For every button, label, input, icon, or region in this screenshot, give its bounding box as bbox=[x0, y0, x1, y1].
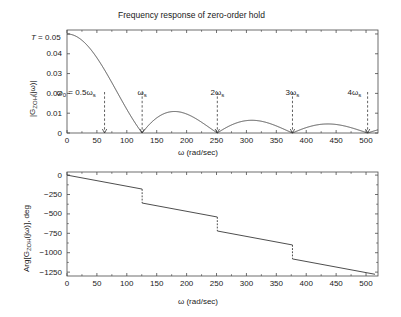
bottom-ytick-label: 0 bbox=[58, 171, 62, 180]
top-ytick-label: 0 bbox=[58, 129, 62, 138]
sampling-period-label: T = 0.05 bbox=[31, 33, 61, 42]
top-xtick-label: 350 bbox=[270, 136, 283, 145]
top-xtick-label: 0 bbox=[65, 136, 69, 145]
zoh-frequency-response-figure: Frequency response of zero-order hold T … bbox=[0, 0, 401, 317]
top-xtick-label: 150 bbox=[150, 136, 163, 145]
top-xtick-label: 300 bbox=[240, 136, 253, 145]
magnitude-curve bbox=[67, 34, 378, 133]
bottom-xtick-label: 200 bbox=[180, 279, 193, 288]
bottom-plot-axes bbox=[67, 172, 378, 276]
bottom-xtick-label: 500 bbox=[359, 279, 372, 288]
top-ylabel-post: (jω)| bbox=[28, 81, 37, 96]
bottom-xtick-label: 100 bbox=[120, 279, 133, 288]
3omegas-marker-label: 3ωs bbox=[286, 88, 300, 98]
bottom-ytick-label: −750 bbox=[44, 229, 62, 238]
bottom-ylabel-sub: ZOH bbox=[26, 238, 32, 251]
page-title: Frequency response of zero-order hold bbox=[118, 11, 265, 20]
top-xtick-label: 100 bbox=[120, 136, 133, 145]
bottom-xtick-label: 300 bbox=[240, 279, 253, 288]
omega0-marker-label: ω0 = 0.5ωs bbox=[57, 88, 96, 98]
bottom-xtick-label: 450 bbox=[329, 279, 342, 288]
top-ylabel-pre: |G bbox=[28, 109, 37, 117]
magnitude-marker-lines bbox=[102, 92, 369, 133]
top-xtick-label: 50 bbox=[92, 136, 101, 145]
bottom-ylabel-post: (jω)], deg bbox=[22, 205, 31, 238]
top-xlabel: ω (rad/sec) bbox=[178, 148, 218, 157]
top-xtick-label: 250 bbox=[210, 136, 223, 145]
top-plot-axes bbox=[67, 30, 378, 133]
bottom-xtick-label: 150 bbox=[150, 279, 163, 288]
bottom-xtick-label: 250 bbox=[210, 279, 223, 288]
figure-root: Frequency response of zero-order hold T … bbox=[0, 0, 401, 317]
bottom-xlabel: ω (rad/sec) bbox=[178, 297, 218, 306]
top-xtick-label: 500 bbox=[359, 136, 372, 145]
4omegas-marker-label: 4ωs bbox=[348, 88, 362, 98]
bottom-ylabel-pre: Arg[G bbox=[22, 251, 31, 272]
top-xtick-label: 450 bbox=[329, 136, 342, 145]
bottom-ytick-label: −1000 bbox=[40, 248, 62, 257]
bottom-xtick-label: 0 bbox=[65, 279, 69, 288]
top-xtick-label: 200 bbox=[180, 136, 193, 145]
top-ylabel: |GZOH(jω)| bbox=[28, 81, 38, 117]
2omegas-marker-label: 2ωs bbox=[210, 88, 224, 98]
top-ytick-label: 0.04 bbox=[46, 49, 62, 58]
bottom-ytick-label: −500 bbox=[44, 209, 62, 218]
phase-curve bbox=[67, 175, 375, 274]
bottom-ytick-label: −1250 bbox=[40, 268, 62, 277]
top-ytick-label: 0.03 bbox=[46, 69, 62, 78]
top-ylabel-sub: ZOH bbox=[32, 96, 38, 109]
bottom-xtick-label: 50 bbox=[92, 279, 101, 288]
bottom-xtick-label: 350 bbox=[270, 279, 283, 288]
bottom-ytick-label: −250 bbox=[44, 190, 62, 199]
bottom-ylabel: Arg[GZOH(jω)], deg bbox=[22, 205, 32, 272]
top-ytick-label: 0.01 bbox=[46, 109, 62, 118]
top-xtick-label: 400 bbox=[300, 136, 313, 145]
omegas-marker-label: ωs bbox=[138, 88, 147, 98]
bottom-xtick-label: 400 bbox=[300, 279, 313, 288]
